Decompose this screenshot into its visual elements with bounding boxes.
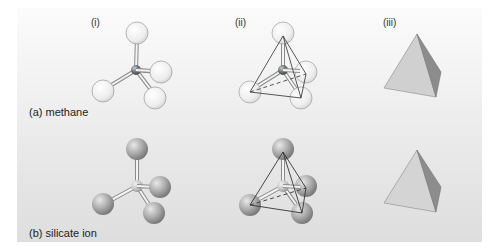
oxygen-atom <box>92 193 114 215</box>
hydrogen-atom <box>92 80 114 102</box>
oxygen-atom <box>126 138 148 160</box>
hydrogen-atom <box>126 22 148 44</box>
tetrahedra-diagram <box>0 0 500 250</box>
hydrogen-atom <box>150 61 172 83</box>
silicate-tetrahedron-outline <box>239 138 317 224</box>
hydrogen-atom <box>144 87 166 109</box>
methane-tetrahedron-outline <box>239 22 317 109</box>
silicate-solid-tetrahedron <box>384 150 441 212</box>
methane-solid-tetrahedron <box>384 34 441 97</box>
methane-ball-and-stick <box>92 22 172 109</box>
oxygen-atom <box>149 176 171 198</box>
silicate-ball-and-stick <box>92 138 171 224</box>
oxygen-atom <box>143 202 165 224</box>
